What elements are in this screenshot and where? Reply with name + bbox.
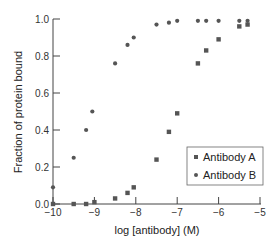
data-point-antibody-b [84,128,88,132]
x-axis-title: log [antibody] (M) [115,224,200,236]
data-point-antibody-b [125,43,129,47]
data-point-antibody-a [154,157,158,161]
data-point-antibody-a [113,196,117,200]
data-point-antibody-a [196,61,200,65]
y-ticks: 0.00.20.40.60.81.0 [35,14,60,210]
data-point-antibody-b [237,19,241,23]
data-point-antibody-b [167,21,171,25]
data-point-antibody-a [175,111,179,115]
y-tick-label: 0.8 [35,51,49,62]
data-point-antibody-a [204,48,208,52]
y-axis-title: Fraction of protein bound [12,51,24,173]
x-tick-label: −6 [213,207,225,218]
x-tick-label: −9 [89,207,101,218]
y-tick-label: 0.6 [35,88,49,99]
data-point-antibody-a [72,202,76,206]
data-point-antibody-a [245,22,249,26]
data-point-antibody-a [51,202,55,206]
x-tick-label: −5 [254,207,266,218]
data-point-antibody-b [217,19,221,23]
data-point-antibody-a [237,24,241,28]
data-point-antibody-a [92,200,96,204]
legend-label-antibody-a: Antibody A [203,151,256,163]
data-point-antibody-b [132,35,136,39]
data-point-antibody-b [90,109,94,113]
data-point-antibody-b [196,19,200,23]
data-point-antibody-b [51,185,55,189]
x-tick-label: −7 [171,207,183,218]
data-point-antibody-b [245,19,249,23]
y-tick-label: 0.2 [35,162,49,173]
data-point-antibody-b [113,61,117,65]
y-tick-label: 0.4 [35,125,49,136]
legend: Antibody A Antibody B [187,147,263,185]
data-point-antibody-a [132,185,136,189]
data-point-antibody-b [72,156,76,160]
data-point-antibody-a [216,37,220,41]
data-point-antibody-a [167,130,171,134]
data-point-antibody-b [175,19,179,23]
legend-square-icon [194,155,198,159]
legend-circle-icon [194,173,198,177]
x-tick-label: −10 [45,207,62,218]
y-tick-label: 1.0 [35,14,49,25]
legend-label-antibody-b: Antibody B [203,169,256,181]
data-point-antibody-b [154,22,158,26]
data-point-antibody-b [204,19,208,23]
x-ticks: −10−9−8−7−6−5 [45,197,267,218]
x-tick-label: −8 [130,207,142,218]
scatter-chart: 0.00.20.40.60.81.0 −10−9−8−7−6−5 Fractio… [0,0,279,247]
data-point-antibody-a [84,202,88,206]
data-point-antibody-a [125,191,129,195]
